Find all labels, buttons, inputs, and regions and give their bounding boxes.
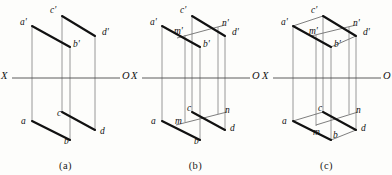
label-b: b bbox=[333, 131, 338, 141]
label-c-prime: c' bbox=[311, 6, 317, 16]
label-a: a bbox=[151, 117, 156, 127]
axis-label-x-b: X bbox=[131, 71, 137, 82]
label-d-prime: d' bbox=[363, 28, 370, 38]
axis-label-x-c: X bbox=[262, 71, 268, 82]
descriptive-geometry-figure: a' c' b' d' a c b d X O (a) bbox=[0, 0, 392, 175]
label-c-prime: c' bbox=[50, 6, 56, 16]
label-b-prime: b' bbox=[203, 40, 210, 50]
panel-c: a' c' m' n' b' d' a c m n b d X O (c) bbox=[261, 0, 392, 175]
label-n: n bbox=[225, 106, 230, 116]
label-c-prime: c' bbox=[180, 6, 186, 16]
label-c: c bbox=[318, 104, 322, 114]
label-d: d bbox=[100, 127, 105, 137]
panel-a-caption: (a) bbox=[0, 160, 131, 171]
label-b: b bbox=[64, 137, 69, 147]
axis-label-x-a: X bbox=[1, 71, 7, 82]
label-d: d bbox=[230, 124, 235, 134]
horizontal-projection-c bbox=[293, 112, 356, 140]
label-a-prime: a' bbox=[150, 18, 157, 28]
label-d-prime: d' bbox=[232, 28, 239, 38]
label-m-prime: m' bbox=[309, 27, 318, 37]
axis-label-o-c: O bbox=[383, 71, 391, 82]
label-b-prime: b' bbox=[73, 40, 80, 50]
label-c: c bbox=[187, 104, 191, 114]
panel-a: a' c' b' d' a c b d X O (a) bbox=[0, 0, 131, 175]
label-m-prime: m' bbox=[174, 27, 183, 37]
label-n-prime: n' bbox=[353, 19, 360, 29]
label-n-prime: n' bbox=[222, 19, 229, 29]
auxiliary-lines-b bbox=[176, 25, 227, 125]
panel-b: a' c' m' n' b' d' a c m n b d X O (b) bbox=[130, 0, 261, 175]
panel-b-caption: (b) bbox=[130, 160, 261, 171]
label-d: d bbox=[361, 124, 366, 134]
label-a: a bbox=[282, 117, 287, 127]
label-d-prime: d' bbox=[102, 28, 109, 38]
label-n: n bbox=[356, 106, 361, 116]
frontal-projection-c bbox=[293, 16, 356, 47]
frontal-projection-a bbox=[32, 16, 95, 47]
label-c: c bbox=[57, 109, 61, 119]
panel-c-caption: (c) bbox=[261, 160, 392, 171]
label-m: m bbox=[175, 117, 182, 127]
label-m: m bbox=[313, 128, 320, 138]
label-a: a bbox=[21, 117, 26, 127]
label-a-prime: a' bbox=[281, 18, 288, 28]
label-a-prime: a' bbox=[20, 18, 27, 28]
axis-label-o-a: O bbox=[122, 71, 130, 82]
frontal-projection-b bbox=[162, 16, 225, 47]
label-b-prime: b' bbox=[334, 40, 341, 50]
label-b: b bbox=[194, 137, 199, 147]
axis-label-o-b: O bbox=[252, 71, 260, 82]
